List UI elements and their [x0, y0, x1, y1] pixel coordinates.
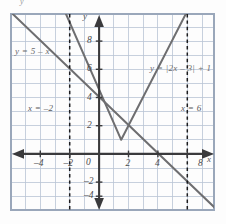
y-tick-label-2: 2: [87, 121, 92, 131]
label-abs-equation: y = |2x – 3| + 1: [150, 64, 211, 73]
x-axis-name: x: [207, 155, 211, 164]
y-tick-label-8: 8: [87, 36, 92, 46]
y-tick-label-6: 6: [87, 64, 92, 74]
label-vertical-left: x = –2: [28, 104, 53, 113]
y-tick-label-neg4: –4: [84, 191, 94, 201]
y-tick-label-neg2: –2: [84, 177, 94, 187]
label-vertical-right: x = 6: [181, 104, 202, 113]
x-tick-label-2: 2: [126, 159, 131, 169]
y-axis-name: y: [83, 12, 87, 21]
x-tick-label-neg4: –4: [34, 159, 44, 169]
label-line-equation: y = 5 – x: [15, 47, 50, 56]
x-tick-label-8: 8: [198, 159, 203, 169]
x-tick-label-4: 4: [155, 159, 160, 169]
y-tick-label-4: 4: [87, 93, 92, 103]
x-tick-label-0: 0: [86, 158, 91, 168]
graph-figure: y: [0, 0, 226, 224]
x-tick-label-neg2: –2: [64, 159, 74, 169]
